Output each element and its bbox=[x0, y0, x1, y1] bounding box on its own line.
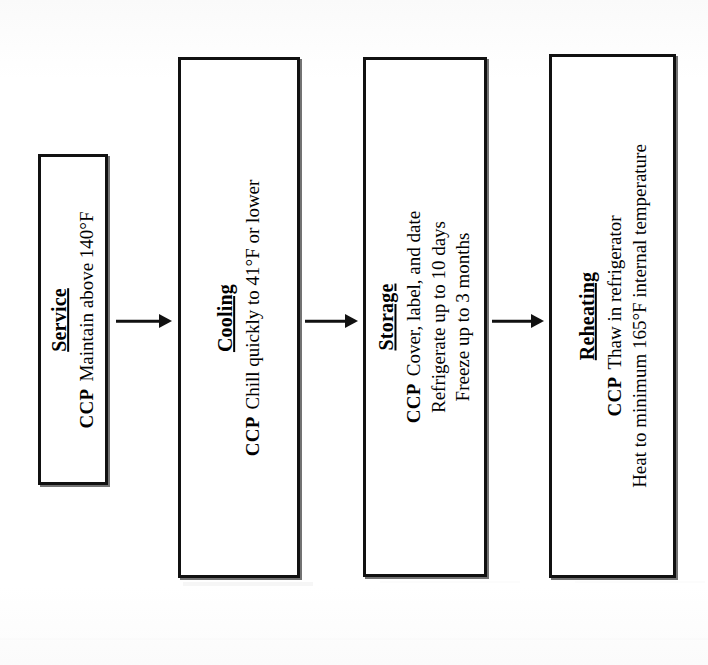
process-box-cooling-text: Cooling CCPChill quickly to 41°F or lowe… bbox=[212, 179, 266, 456]
step-line-storage-0: CCPCover, label, and date bbox=[402, 211, 427, 423]
step-title-storage: Storage bbox=[373, 211, 399, 423]
step-detail-storage-2: Freeze up to 3 months bbox=[452, 211, 477, 423]
arrow-right-icon-storage-to-reheating bbox=[492, 310, 544, 332]
process-box-cooling[interactable]: Cooling CCPChill quickly to 41°F or lowe… bbox=[178, 57, 300, 578]
ccp-label-service: CCP bbox=[76, 388, 97, 428]
scan-artifact bbox=[575, 581, 705, 583]
step-detail-storage-0: Cover, label, and date bbox=[403, 211, 424, 376]
step-detail-service-0: Maintain above 140°F bbox=[76, 211, 97, 381]
step-line-reheating-0: CCPThaw in refrigerator bbox=[602, 144, 627, 488]
arrow-right-icon-cooling-to-storage bbox=[305, 310, 358, 332]
scan-artifact bbox=[380, 581, 520, 583]
ccp-label-cooling: CCP bbox=[242, 416, 263, 456]
step-detail-reheating-1: Heat to minimum 165°F internal temperatu… bbox=[627, 144, 652, 488]
process-box-service-text: Service CCPMaintain above 140°F bbox=[46, 211, 100, 428]
step-line-service-0: CCPMaintain above 140°F bbox=[75, 211, 100, 428]
arrow-right-icon-service-to-cooling bbox=[116, 310, 172, 332]
process-box-storage[interactable]: Storage CCPCover, label, and date Refrig… bbox=[363, 57, 487, 577]
process-box-reheating[interactable]: Reheating CCPThaw in refrigerator Heat t… bbox=[549, 54, 676, 578]
arrow-head bbox=[159, 314, 172, 328]
arrow-shaft bbox=[116, 320, 162, 323]
arrow-shaft bbox=[492, 320, 534, 323]
process-box-storage-text: Storage CCPCover, label, and date Refrig… bbox=[373, 211, 476, 423]
step-detail-storage-1: Refrigerate up to 10 days bbox=[427, 211, 452, 423]
scan-artifact bbox=[183, 582, 313, 586]
scan-artifact bbox=[0, 638, 708, 640]
step-detail-cooling-0: Chill quickly to 41°F or lower bbox=[242, 179, 263, 409]
diagram-canvas: Service CCPMaintain above 140°F Cooling … bbox=[0, 0, 708, 665]
ccp-label-reheating: CCP bbox=[603, 377, 624, 417]
step-title-reheating: Reheating bbox=[573, 144, 599, 488]
step-line-cooling-0: CCPChill quickly to 41°F or lower bbox=[241, 179, 266, 456]
arrow-head bbox=[531, 314, 544, 328]
ccp-label-storage: CCP bbox=[403, 383, 424, 423]
arrow-shaft bbox=[305, 320, 348, 323]
arrow-head bbox=[345, 314, 358, 328]
process-box-service[interactable]: Service CCPMaintain above 140°F bbox=[38, 154, 108, 485]
step-title-cooling: Cooling bbox=[212, 179, 238, 456]
step-detail-reheating-0: Thaw in refrigerator bbox=[603, 216, 624, 370]
step-title-service: Service bbox=[46, 211, 72, 428]
process-box-reheating-text: Reheating CCPThaw in refrigerator Heat t… bbox=[573, 144, 651, 488]
